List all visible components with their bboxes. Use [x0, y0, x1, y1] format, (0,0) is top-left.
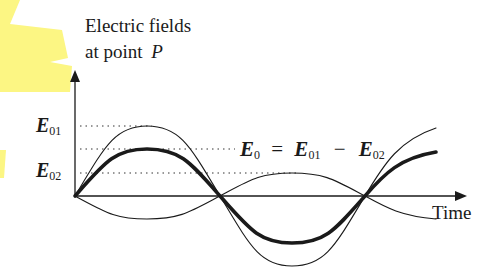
e02-label: E02: [35, 159, 61, 183]
figure-title-line-2: at point P: [85, 41, 163, 62]
x-axis-arrow-icon: [455, 191, 467, 201]
reference-lines: [80, 126, 298, 173]
x-axis-label: Time: [432, 202, 471, 223]
axes: [70, 70, 467, 201]
highlighter-marks: [0, 0, 72, 178]
electric-field-diagram: Electric fields at point P E01 E02 E0 = …: [0, 0, 499, 279]
figure-title-line-1: Electric fields: [85, 15, 191, 36]
e01-label: E01: [35, 114, 61, 138]
resultant-equation: E0 = E01 − E02: [239, 137, 385, 164]
